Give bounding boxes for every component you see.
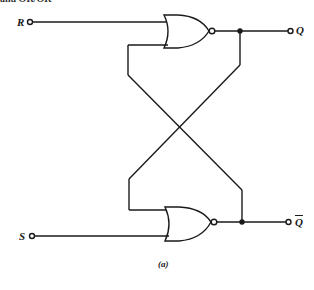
q-output-label: Q: [296, 25, 304, 36]
top-nor-bubble: [209, 28, 215, 34]
figure-caption: (a): [158, 259, 169, 269]
q-bar-output-terminal: [286, 220, 291, 225]
q-bar-output-label: Q: [295, 217, 303, 228]
r-input-label: R: [17, 17, 24, 28]
circuit-schematic: [0, 0, 314, 290]
q-bar-junction-dot: [240, 220, 244, 224]
r-input-terminal: [28, 20, 33, 25]
sr-latch-diagram: and OR/OR: [0, 0, 314, 290]
q-output-terminal: [288, 29, 293, 34]
bottom-nor-bubble: [211, 219, 217, 225]
s-input-label: S: [19, 231, 25, 242]
bottom-nor-gate: [165, 207, 211, 241]
s-input-terminal: [30, 234, 35, 239]
top-nor-gate: [164, 15, 209, 48]
